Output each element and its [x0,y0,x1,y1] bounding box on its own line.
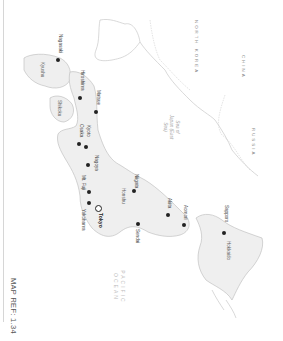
city-dot-yokohama[interactable] [87,201,91,205]
mainland-coast [100,19,258,176]
city-dot-kyoto[interactable] [84,145,88,149]
label-nagoya: Nagoya [94,155,99,171]
label-niigata: Niigata [134,174,139,188]
label-yokohama: Yokohama [81,209,86,231]
label-kyushu: Kyushu [40,62,45,77]
map-frame-line [3,0,4,322]
label-sendai: Sendai [135,229,140,243]
kyushu-island [24,54,71,88]
label-osaka: Osaka [79,124,84,137]
city-dot-sendai[interactable] [136,222,140,226]
label-hokkaido: Hokkaido [226,241,231,260]
label-mt-fuji: Mt. Fuji [81,175,86,190]
label-tokyo: Tokyo [98,213,104,228]
city-dot-niigata[interactable] [132,189,136,193]
japan-map: NORTH KOREA CHINA RUSSIA Sea of Japan (E… [0,0,283,341]
city-dot-sapporo[interactable] [222,231,226,235]
label-honshu: Honshu [121,188,126,204]
city-dot-nagoya[interactable] [86,163,90,167]
label-north-korea: NORTH KOREA [194,20,199,74]
city-dot-nagasaki[interactable] [56,58,60,62]
label-china: CHINA [241,55,246,79]
label-hiroshima: Hiroshima [80,70,85,91]
city-dot-osaka[interactable] [77,142,81,146]
label-matsue: Matsue [96,90,101,105]
label-kyoto: Kyoto [86,125,91,137]
city-dot-matsue[interactable] [94,110,98,114]
city-dot-hiroshima[interactable] [78,96,82,100]
map-canvas [0,0,283,341]
label-nagasaki: Nagasaki [58,34,63,53]
capital-star-icon[interactable] [95,205,102,212]
label-shikoku: Shikoku [57,100,62,116]
label-akita: Akita [167,198,172,208]
label-pacific-ocean: PACIFIC OCEAN [112,270,126,304]
label-sea-of-japan: Sea of Japan (East Sea) [162,114,180,140]
map-reference: MAP REF: 1.34 [9,278,18,334]
label-aomori: Aomori [183,205,188,220]
label-russia: RUSSIA [251,128,256,156]
label-sapporo: Sapporo [224,205,229,222]
city-dot-akita[interactable] [166,213,170,217]
city-dot-mt-fuji[interactable] [87,190,91,194]
china-korea-border [150,20,190,90]
city-dot-aomori[interactable] [182,223,186,227]
